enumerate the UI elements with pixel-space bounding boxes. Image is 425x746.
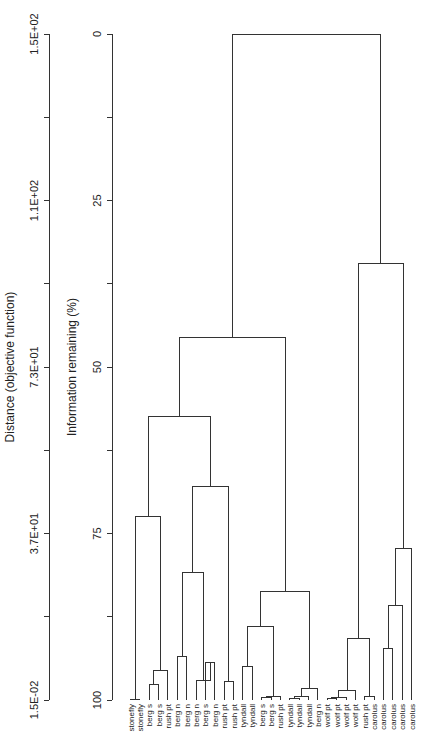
information-tick-label: 50 [91, 361, 103, 373]
leaf-label: tyndall [286, 704, 295, 727]
dendrogram-chart: 1.5E-023.7E+017.3E+011.1E+021.5E+02 Dist… [0, 0, 425, 746]
leaf-label: rush pt [361, 703, 370, 728]
dendrogram-link [243, 667, 252, 700]
dendrogram-link [347, 639, 369, 696]
information-axis-title: Information remaining (%) [65, 298, 79, 436]
dendrogram-link [388, 605, 402, 700]
leaf-label: berg s [201, 704, 210, 726]
leaf-label: carolus [389, 704, 398, 730]
information-tick-label: 100 [91, 691, 103, 709]
information-axis: 1007550250 Information remaining (%) [65, 31, 112, 709]
dendrogram-link [131, 699, 140, 700]
dendrogram-link [339, 691, 355, 700]
dendrogram-link [154, 671, 168, 700]
leaf-label: carolus [408, 704, 417, 730]
information-tick-label: 75 [91, 527, 103, 539]
leaf-label: berg n [211, 704, 220, 727]
information-axis-ticks: 1007550250 [91, 31, 112, 709]
dendrogram-link [248, 626, 274, 696]
leaf-label: rush pt [230, 703, 239, 728]
dendrogram-link [179, 337, 285, 591]
leaf-label: wolf pt [323, 703, 332, 728]
dendrogram-link [149, 684, 158, 700]
leaf-label: wolf pt [342, 703, 351, 728]
distance-tick-label: 3.7E+01 [28, 513, 40, 554]
information-tick-label: 0 [91, 31, 103, 37]
dendrogram-link [177, 657, 186, 700]
distance-tick-label: 1.5E-02 [28, 681, 40, 720]
dendrogram-link [358, 264, 403, 639]
leaf-label: wolf pt [333, 703, 342, 728]
leaf-label: berg n [183, 704, 192, 727]
leaf-label: rush pt [220, 703, 229, 728]
dendrogram-link [262, 697, 271, 700]
leaf-label: berg s [145, 704, 154, 726]
distance-tick-label: 7.3E+01 [28, 346, 40, 387]
dendrogram-link [327, 699, 336, 700]
leaf-label: rush pt [164, 703, 173, 728]
dendrogram-link [193, 486, 229, 681]
dendrogram-link [290, 698, 299, 700]
leaf-label: tyndall [305, 704, 314, 727]
distance-tick-label: 1.1E+02 [28, 180, 40, 221]
dendrogram-links [131, 34, 412, 700]
distance-axis-ticks: 1.5E-023.7E+017.3E+011.1E+021.5E+02 [28, 13, 49, 719]
leaf-label: tyndall [239, 704, 248, 727]
leaf-label: tyndall [295, 704, 304, 727]
dendrogram-link [148, 416, 211, 516]
leaf-label: carolus [398, 704, 407, 730]
leaf-labels: stoneflystoneflyberg sberg srush ptberg … [127, 703, 417, 731]
distance-axis-title: Distance (objective function) [3, 292, 17, 443]
leaf-label: tyndall [248, 704, 257, 727]
dendrogram-link [395, 548, 411, 693]
dendrogram-link [365, 696, 374, 700]
distance-tick-label: 1.5E+02 [28, 13, 40, 54]
dendrogram-link [135, 516, 161, 699]
leaf-label: berg s [155, 704, 164, 726]
leaf-label: carolus [379, 704, 388, 730]
dendrogram-link [266, 696, 280, 700]
leaf-label: carolus [370, 704, 379, 730]
dendrogram-link [302, 688, 318, 700]
dendrogram-link [383, 649, 392, 700]
leaf-label: berg n [173, 704, 182, 727]
information-tick-label: 25 [91, 194, 103, 206]
leaf-label: berg s [258, 704, 267, 726]
leaf-label: berg n [192, 704, 201, 727]
dendrogram-link [224, 681, 233, 700]
dendrogram-link [261, 591, 310, 688]
leaf-label: berg s [267, 704, 276, 726]
dendrogram-link [182, 573, 203, 680]
leaf-label: rush pt [276, 703, 285, 728]
distance-axis: 1.5E-023.7E+017.3E+011.1E+021.5E+02 Dist… [3, 13, 49, 719]
leaf-label: stonefly [136, 704, 145, 732]
leaf-label: stonefly [127, 704, 136, 732]
leaf-label: wolf pt [351, 703, 360, 728]
leaf-label: berg n [314, 704, 323, 727]
